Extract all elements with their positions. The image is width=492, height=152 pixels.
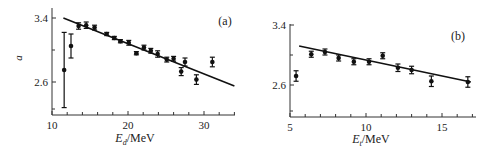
panel-label: (a) bbox=[218, 14, 231, 28]
panel-b: 510152.63.4(b)Et/MeV bbox=[272, 19, 476, 148]
y-tick-label: 2.6 bbox=[34, 76, 48, 88]
x-axis-label: Et/MeV bbox=[351, 132, 390, 148]
x-tick-label: 5 bbox=[287, 121, 293, 133]
data-point bbox=[210, 57, 215, 67]
data-point bbox=[336, 55, 341, 61]
data-point bbox=[465, 77, 470, 88]
data-point bbox=[118, 39, 123, 44]
data-point bbox=[322, 49, 327, 55]
panel-a: 1020302.63.4(a)Ed/MeVa bbox=[12, 8, 235, 147]
data-point bbox=[395, 64, 400, 72]
data-point bbox=[134, 51, 139, 56]
x-tick-label: 30 bbox=[199, 119, 211, 131]
data-point bbox=[409, 66, 414, 74]
y-tick-label: 2.6 bbox=[272, 79, 286, 91]
data-point bbox=[351, 59, 356, 65]
data-point bbox=[294, 71, 299, 82]
data-point bbox=[104, 32, 109, 37]
x-axis-label: Ed/MeV bbox=[114, 131, 155, 147]
data-point bbox=[429, 76, 434, 87]
x-tick-label: 20 bbox=[123, 119, 135, 131]
data-point bbox=[62, 32, 67, 107]
data-point bbox=[112, 36, 117, 41]
y-tick-label: 3.4 bbox=[272, 19, 286, 31]
data-point bbox=[179, 68, 184, 76]
y-axis-label: a bbox=[12, 55, 24, 61]
panel-label: (b) bbox=[451, 29, 465, 43]
chart-figure: 1020302.63.4(a)Ed/MeVa 510152.63.4(b)Et/… bbox=[0, 0, 492, 152]
x-tick-label: 10 bbox=[47, 119, 59, 131]
data-point bbox=[194, 75, 199, 85]
x-tick-label: 15 bbox=[437, 121, 449, 133]
data-point bbox=[309, 51, 314, 57]
data-point bbox=[69, 34, 74, 58]
y-tick-label: 3.4 bbox=[34, 12, 48, 24]
data-point bbox=[380, 53, 385, 59]
